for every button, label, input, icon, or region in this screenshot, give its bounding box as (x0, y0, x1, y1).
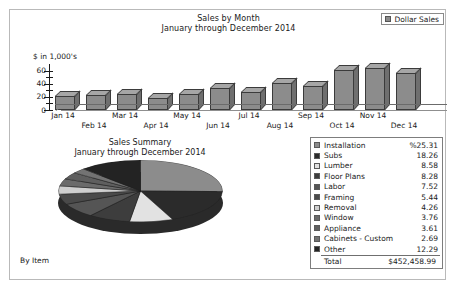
series-swatch-icon (314, 236, 320, 242)
bar-chart-plot-area: 0204060 (33, 64, 437, 110)
series-percent-value: 3.76 (421, 213, 438, 222)
series-swatch-icon (314, 205, 320, 211)
x-tick-label: May 14 (170, 111, 204, 120)
series-swatch-icon (314, 246, 320, 252)
table-row: Labor7.52 (311, 182, 442, 192)
x-tick-label: Dec 14 (387, 121, 421, 130)
y-axis-caption: $ in 1,000's (33, 52, 77, 61)
y-axis: 0204060 (33, 64, 55, 110)
series-percent-value: 5.44 (421, 193, 438, 202)
series-label: Framing (324, 193, 421, 202)
series-label: Removal (324, 203, 421, 212)
bar-chart-legend: Dollar Sales (381, 13, 444, 25)
pie-chart-panel: Sales Summary January through December 2… (10, 134, 447, 281)
series-percent-value: 8.58 (421, 161, 438, 170)
series-label: Cabinets - Custom (324, 234, 421, 243)
series-label: Subs (324, 151, 417, 160)
series-label: Floor Plans (324, 172, 421, 181)
x-tick-label: Jul 14 (232, 111, 266, 120)
legend-swatch-icon (385, 16, 391, 22)
series-label: Appliance (324, 224, 421, 233)
series-label: Installation (324, 141, 409, 150)
table-row: Framing5.44 (311, 192, 442, 202)
series-label: Other (324, 245, 417, 254)
pie-chart-subtitle: January through December 2014 (40, 148, 240, 158)
total-value: $452,458.99 (388, 257, 436, 266)
legend-label: Dollar Sales (394, 15, 439, 24)
bar-chart-panel: Sales by Month January through December … (10, 10, 447, 134)
table-total-row: Total $452,458.99 (321, 255, 440, 266)
x-tick-label: Nov 14 (356, 111, 390, 120)
y-tick-mark-minor (46, 90, 53, 91)
y-tick-mark (44, 97, 53, 98)
series-percent-value: %25.31 (409, 141, 438, 150)
table-row: Lumber8.58 (311, 161, 442, 171)
series-percent-value: 18.26 (417, 151, 438, 160)
report-frame: Sales by Month January through December … (9, 9, 446, 280)
table-row: Appliance3.61 (311, 223, 442, 233)
series-swatch-icon (314, 194, 320, 200)
y-tick-mark (44, 84, 53, 85)
series-percent-value: 12.29 (417, 245, 438, 254)
series-percent-value: 2.69 (421, 234, 438, 243)
x-tick-label: Feb 14 (77, 121, 111, 130)
x-tick-label: Oct 14 (325, 121, 359, 130)
series-swatch-icon (314, 215, 320, 221)
x-axis-month-labels: Jan 14Feb 14Mar 14Apr 14May 14Jun 14Jul … (55, 111, 447, 133)
series-percent-value: 3.61 (421, 224, 438, 233)
by-item-label: By Item (20, 256, 49, 265)
series-percent-value: 7.52 (421, 182, 438, 191)
pie-chart-top-face (58, 160, 223, 222)
series-swatch-icon (314, 163, 320, 169)
series-label: Window (324, 213, 421, 222)
series-swatch-icon (314, 142, 320, 148)
x-tick-label: Sep 14 (294, 111, 328, 120)
series-percent-value: 4.26 (421, 203, 438, 212)
x-tick-label: Aug 14 (263, 121, 297, 130)
pie-chart-title: Sales Summary (40, 138, 240, 148)
x-tick-label: Mar 14 (108, 111, 142, 120)
table-row: Floor Plans8.28 (311, 171, 442, 181)
table-body: Installation%25.31Subs18.26Lumber8.58Flo… (311, 140, 442, 254)
table-row: Subs18.26 (311, 150, 442, 160)
series-swatch-icon (314, 153, 320, 159)
bar-chart-subtitle: January through December 2014 (10, 24, 447, 34)
x-tick-label: Apr 14 (139, 121, 173, 130)
series-label: Labor (324, 182, 421, 191)
series-swatch-icon (314, 184, 320, 190)
pie-slices (58, 160, 223, 222)
series-percent-value: 8.28 (421, 172, 438, 181)
series-label: Lumber (324, 161, 421, 170)
table-row: Cabinets - Custom2.69 (311, 234, 442, 244)
table-row: Other12.29 (311, 244, 442, 254)
y-tick-mark-minor (46, 77, 53, 78)
series-swatch-icon (314, 173, 320, 179)
x-tick-label: Jun 14 (201, 121, 235, 130)
chart-floor-plane (55, 104, 447, 111)
total-label: Total (324, 257, 388, 266)
pie-slice-installation (141, 160, 223, 192)
table-row: Installation%25.31 (311, 140, 442, 150)
series-swatch-icon (314, 225, 320, 231)
y-tick-mark-minor (46, 103, 53, 104)
table-row: Removal4.26 (311, 202, 442, 212)
y-tick-mark (44, 71, 53, 72)
bar-side-face (385, 62, 390, 110)
table-row: Window3.76 (311, 213, 442, 223)
x-tick-label: Jan 14 (46, 111, 80, 120)
sales-summary-table: Installation%25.31Subs18.26Lumber8.58Flo… (310, 137, 443, 269)
pie-chart-graphic (58, 160, 223, 238)
